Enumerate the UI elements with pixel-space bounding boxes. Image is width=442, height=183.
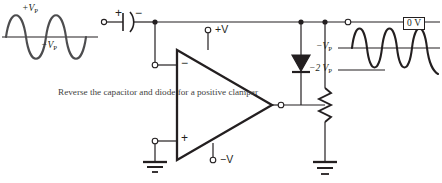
output-sine-curve bbox=[352, 29, 438, 75]
diode-symbol[interactable] bbox=[292, 55, 310, 72]
ground-output-resistor-symbol bbox=[313, 162, 337, 174]
supply-negative-terminal[interactable] bbox=[210, 157, 216, 163]
diode-triangle bbox=[292, 55, 310, 71]
opamp-supply-positive-label: +V bbox=[215, 23, 228, 35]
noninverting-input-terminal[interactable] bbox=[152, 138, 158, 144]
output-level-zero-badge: 0 V bbox=[403, 17, 425, 30]
circuit-diagram-canvas: +VP −VP + − − + +V −V −VP −2 VP 0 V Reve… bbox=[0, 0, 442, 183]
input-peak-positive-label: +VP bbox=[22, 3, 38, 14]
opamp-triangle-outline bbox=[177, 50, 272, 160]
inverting-input-terminal[interactable] bbox=[152, 62, 158, 68]
opamp-supply-negative-label: −V bbox=[220, 153, 233, 165]
ground-opamp-input-symbol bbox=[143, 162, 167, 172]
supply-positive-terminal[interactable] bbox=[205, 27, 211, 33]
output-probe-terminal[interactable] bbox=[345, 19, 351, 25]
opamp-inverting-input-label: − bbox=[181, 57, 188, 71]
opamp-noninverting-input-label: + bbox=[181, 132, 188, 146]
output-level-minus-2vp-label: −2 VP bbox=[309, 63, 332, 74]
output-level-minus-vp-label: −VP bbox=[316, 41, 332, 52]
input-peak-negative-label: −VP bbox=[41, 40, 57, 51]
capacitor-minus-label: − bbox=[135, 7, 142, 21]
input-terminal[interactable] bbox=[101, 19, 106, 24]
capacitor-plus-label: + bbox=[115, 7, 122, 21]
noninverting-input-group bbox=[143, 138, 177, 172]
output-probe-group bbox=[345, 19, 351, 25]
annotation-note: Reverse the capacitor and diode for a po… bbox=[58, 86, 180, 98]
input-waveform-group bbox=[2, 15, 98, 59]
output-terminal[interactable] bbox=[278, 102, 284, 108]
